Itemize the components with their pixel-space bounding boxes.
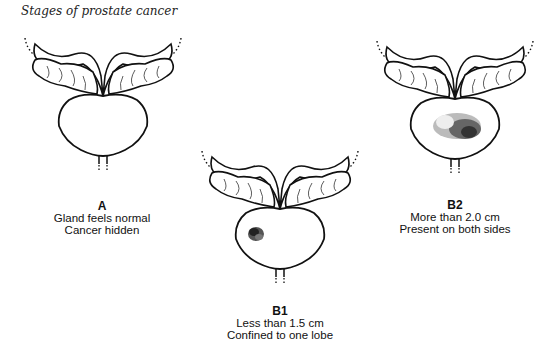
stage-description-line-2: Confined to one lobe [180, 329, 380, 341]
tumor-large [433, 113, 481, 139]
stage-label: A [2, 200, 202, 212]
prostate-illustration-stage-b2 [365, 33, 545, 163]
prostate-illustration-stage-b1 [190, 143, 370, 273]
caption-stage-b2: B2 More than 2.0 cm Present on both side… [355, 199, 555, 235]
stage-label: B1 [180, 305, 380, 317]
stage-label: B2 [355, 199, 555, 211]
stage-description-line-1: Less than 1.5 cm [180, 317, 380, 329]
stage-description-line-1: Gland feels normal [2, 212, 202, 224]
stage-description-line-2: Present on both sides [355, 223, 555, 235]
stage-description-line-2: Cancer hidden [2, 224, 202, 236]
tumor-small [248, 227, 264, 241]
stage-description-line-1: More than 2.0 cm [355, 211, 555, 223]
caption-stage-b1: B1 Less than 1.5 cm Confined to one lobe [180, 305, 380, 341]
figure-title: Stages of prostate cancer [21, 4, 177, 18]
prostate-illustration-stage-a [13, 30, 193, 160]
caption-stage-a: A Gland feels normal Cancer hidden [2, 200, 202, 236]
